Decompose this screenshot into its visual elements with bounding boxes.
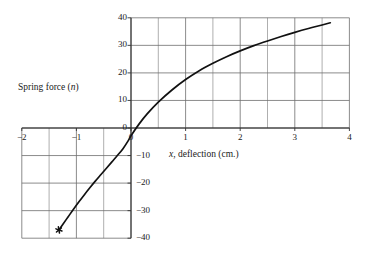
y-axis-title-prefix: Spring force ( [18, 82, 71, 92]
x-tick-label: −2 [11, 132, 33, 142]
x-tick-label: 0 [120, 132, 142, 142]
y-tick-label: 0 [105, 122, 127, 132]
x-tick-label: 4 [338, 132, 360, 142]
x-axis-title-rest: , deflection (cm.) [173, 149, 238, 159]
y-axis-title: Spring force (n) [18, 82, 79, 92]
data-point-markers [56, 227, 62, 233]
y-axis-title-suffix: ) [76, 82, 79, 92]
chart-figure: −2−101234 −40−30−20−10010203040 Spring f… [0, 0, 366, 257]
x-tick-label: 3 [284, 132, 306, 142]
y-tick-label: −10 [136, 150, 160, 160]
data-curve [59, 23, 330, 230]
x-tick-label: 2 [229, 132, 251, 142]
plot-canvas [0, 0, 366, 257]
x-tick-label: −1 [65, 132, 87, 142]
y-tick-label: −20 [136, 177, 160, 187]
y-tick-label: 30 [105, 39, 127, 49]
y-tick-label: 40 [105, 12, 127, 22]
x-tick-label: 1 [175, 132, 197, 142]
y-tick-label: −30 [136, 205, 160, 215]
y-tick-label: 10 [105, 94, 127, 104]
x-axis-title: x, deflection (cm.) [169, 149, 239, 159]
y-tick-label: 20 [105, 67, 127, 77]
y-tick-label: −40 [136, 232, 160, 242]
